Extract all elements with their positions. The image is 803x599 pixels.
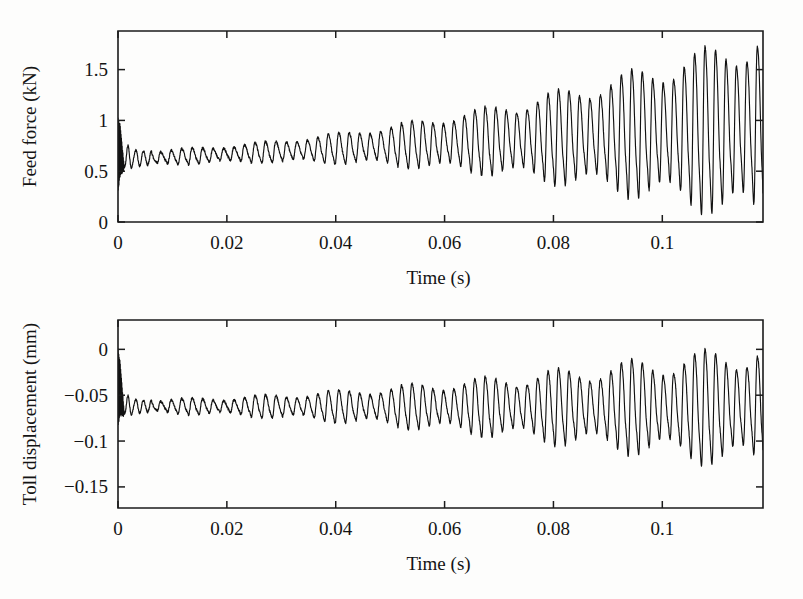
y-axis-title: Toll displacement (mm) (19, 323, 41, 505)
chart-toll-displacement: 0−0.05−0.1−0.1500.020.040.060.080.1Time … (0, 299, 803, 599)
y-tick-label: 0.5 (84, 161, 108, 182)
feed-force-plot-svg: 00.511.500.020.040.060.080.1Time (s)Feed… (0, 0, 803, 300)
y-tick-label: 0 (99, 339, 109, 360)
y-tick-label: −0.15 (64, 476, 108, 497)
x-tick-label: 0.02 (210, 232, 243, 253)
data-series-line (118, 46, 763, 215)
y-tick-label: 1 (99, 110, 109, 131)
x-tick-label: 0.06 (428, 232, 461, 253)
y-tick-label: −0.1 (74, 431, 108, 452)
chart-feed-force: 00.511.500.020.040.060.080.1Time (s)Feed… (0, 0, 803, 300)
y-tick-label: 1.5 (84, 59, 108, 80)
x-tick-label: 0 (113, 232, 123, 253)
toll-displacement-plot-svg: 0−0.05−0.1−0.1500.020.040.060.080.1Time … (0, 299, 803, 599)
x-tick-label: 0.1 (650, 232, 674, 253)
x-tick-label: 0 (113, 518, 123, 539)
x-tick-label: 0.08 (537, 518, 570, 539)
figure-page: 00.511.500.020.040.060.080.1Time (s)Feed… (0, 0, 803, 599)
series-group (118, 348, 763, 466)
x-tick-label: 0.1 (650, 518, 674, 539)
x-axis-title: Time (s) (406, 267, 470, 289)
x-tick-label: 0.04 (319, 518, 353, 539)
series-group (118, 46, 763, 215)
x-axis-title: Time (s) (406, 553, 470, 575)
x-tick-label: 0.02 (210, 518, 243, 539)
y-axis-title: Feed force (kN) (19, 66, 41, 187)
y-tick-label: 0 (99, 212, 109, 233)
x-tick-label: 0.06 (428, 518, 461, 539)
x-tick-label: 0.04 (319, 232, 353, 253)
x-tick-label: 0.08 (537, 232, 570, 253)
y-tick-label: −0.05 (64, 385, 108, 406)
data-series-line (118, 348, 763, 466)
